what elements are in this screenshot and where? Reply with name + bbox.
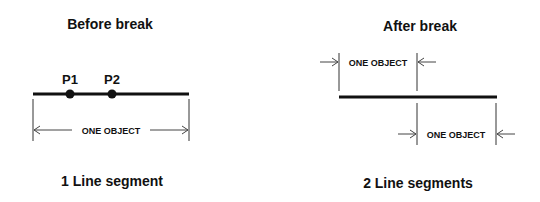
point-p1: [66, 90, 75, 99]
dimension-object-2: ONE OBJECT: [398, 103, 515, 145]
dimension-label: ONE OBJECT: [82, 126, 141, 136]
before-caption: 1 Line segment: [61, 173, 163, 189]
point-p2: [108, 90, 117, 99]
break-diagram: Before break P1 P2 ONE OBJECT 1 Line seg…: [0, 0, 540, 202]
after-caption: 2 Line segments: [363, 175, 473, 191]
point-label-p2: P2: [104, 72, 120, 87]
before-break-panel: Before break P1 P2 ONE OBJECT 1 Line seg…: [33, 16, 189, 189]
dimension-label-2: ONE OBJECT: [427, 130, 486, 140]
dimension-object-1: ONE OBJECT: [320, 53, 436, 91]
after-break-panel: After break ONE OBJECT ONE OBJECT 2 Line…: [320, 18, 515, 191]
after-title: After break: [383, 18, 457, 34]
dimension-label-1: ONE OBJECT: [349, 58, 408, 68]
before-title: Before break: [67, 16, 153, 32]
dimension-one-object: ONE OBJECT: [34, 126, 188, 136]
point-label-p1: P1: [62, 72, 78, 87]
